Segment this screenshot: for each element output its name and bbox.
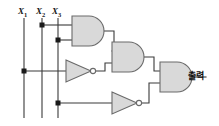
junction-x1-to-not1	[22, 69, 27, 74]
junction-x3-to-not2	[56, 101, 61, 106]
wire-and2-to-and3	[144, 57, 160, 71]
not-gate-1	[66, 60, 96, 82]
not-gate-1-triangle	[66, 60, 91, 82]
input-bus-lines	[24, 18, 58, 118]
input-label-x1: X1	[18, 7, 27, 18]
input-label-x3-sub: 3	[58, 11, 61, 18]
junction-x2-to-and1	[40, 23, 45, 28]
output-label: 출력	[188, 72, 204, 81]
and-gate-2	[112, 42, 144, 72]
not-gate-2-bubble	[136, 100, 141, 105]
junction-x3-to-and1	[56, 38, 61, 43]
input-label-x2-sub: 2	[42, 11, 45, 18]
wire-not1-to-and2	[95, 63, 112, 71]
junction-dots	[22, 23, 61, 106]
wire-not2-to-and3	[141, 83, 160, 103]
not-gate-2	[112, 92, 142, 114]
logic-circuit-figure: X1 X2 X3 출력	[0, 0, 219, 126]
input-label-x3: X3	[52, 7, 61, 18]
input-label-x1-sub: 1	[24, 11, 27, 18]
and-gate-1	[72, 16, 104, 46]
input-label-x2: X2	[36, 7, 45, 18]
not-gate-2-triangle	[112, 92, 137, 114]
circuit-schematic	[0, 0, 219, 126]
not-gate-1-bubble	[90, 68, 95, 73]
